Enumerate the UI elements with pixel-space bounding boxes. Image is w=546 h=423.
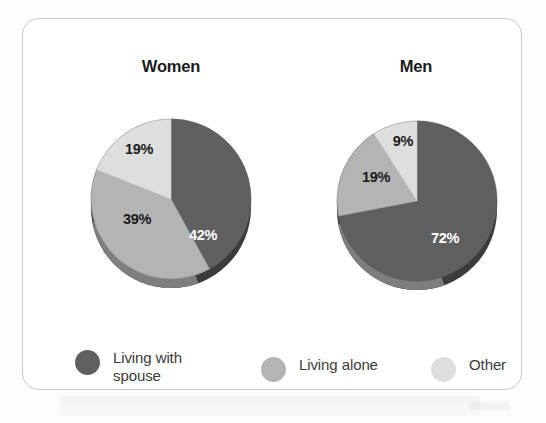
- figure-canvas: Women Men 42%39%19% 72%19%9% Living with…: [0, 0, 546, 423]
- legend-label-living-with-spouse: Living with spouse: [113, 349, 182, 384]
- pie-women-svg: 42%39%19%: [86, 114, 256, 292]
- pie-men-label-1: 19%: [362, 169, 391, 185]
- legend-swatch-living-alone: [261, 357, 286, 382]
- scan-artifact-fragment: [470, 402, 510, 410]
- legend-swatch-living-with-spouse: [75, 350, 100, 375]
- legend-item-living-alone: Living alone: [261, 356, 378, 382]
- legend-label-living-alone: Living alone: [299, 356, 378, 374]
- pie-men-label-2: 9%: [393, 133, 414, 149]
- pie-men-slices: [337, 121, 497, 290]
- chart-title-men: Men: [400, 57, 432, 76]
- pie-women-slices: [91, 119, 251, 288]
- chart-title-women: Women: [142, 57, 200, 76]
- legend-swatch-other: [431, 357, 456, 382]
- pie-men-svg: 72%19%9%: [332, 116, 502, 294]
- pie-women-label-1: 39%: [123, 211, 152, 227]
- legend-item-other: Other: [431, 356, 506, 382]
- legend-label-other: Other: [469, 356, 506, 374]
- chart-card: Women Men 42%39%19% 72%19%9% Living with…: [22, 18, 522, 390]
- pie-women-label-0: 42%: [189, 227, 218, 243]
- pie-women-label-2: 19%: [125, 141, 154, 157]
- pie-chart-women: 42%39%19%: [86, 114, 256, 284]
- pie-chart-men: 72%19%9%: [332, 116, 502, 286]
- pie-men-label-0: 72%: [431, 230, 460, 246]
- legend-item-living-with-spouse: Living with spouse: [75, 349, 182, 384]
- chart-legend: Living with spouse Living alone Other: [75, 345, 525, 401]
